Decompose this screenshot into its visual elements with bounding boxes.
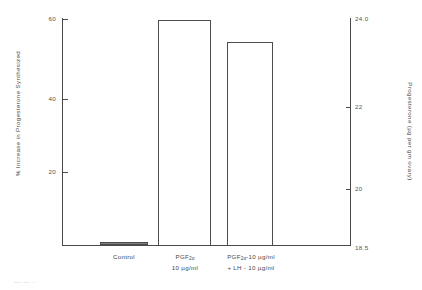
y-axis-left-ticklabel-20: 20 [16, 169, 56, 175]
bar-pgf2a [158, 20, 211, 245]
y-axis-left-tick-20 [63, 172, 68, 173]
x-axis-label-pgf2a-line2: 10 µg/ml [152, 263, 218, 273]
y-axis-left-title: % Increase in Progesterone Synthesized [14, 19, 21, 209]
y-axis-left-ticklabel-60: 60 [16, 16, 56, 22]
x-axis-label-control-text: Control [113, 253, 135, 260]
caption-remnant: —·— ·· [14, 279, 37, 285]
x-axis-label-pgf2a-plus-lh-line2: + LH - 10 µg/ml [212, 263, 290, 273]
y-axis-right-ticklabel-18-5: 18.5 [355, 245, 368, 251]
x-axis-label-pgf2a-plus-lh-prefix: PGF [227, 253, 241, 260]
x-axis-label-pgf2a: PGF2α 10 µg/ml [152, 252, 218, 273]
y-axis-left-tick-40 [63, 99, 68, 100]
y-axis-left-ticklabel-40: 40 [16, 96, 56, 102]
x-axis-label-pgf2a-prefix: PGF [175, 253, 189, 260]
y-axis-right-ticklabel-24: 24.0 [355, 16, 368, 22]
y-axis-right-title: Progesterone (µg per gm ovary) [407, 37, 414, 227]
bar-pgf2a-plus-lh [227, 42, 273, 245]
x-axis-label-pgf2a-line1: PGF2α [152, 252, 218, 263]
y-axis-left-line [62, 18, 63, 246]
x-axis-label-pgf2a-plus-lh-line1: PGF2α-10 µg/ml [212, 252, 290, 263]
y-axis-right-tick-22 [346, 107, 351, 108]
y-axis-right-line [350, 18, 351, 246]
y-axis-right-tick-20 [346, 189, 351, 190]
y-axis-left-tick-60 [63, 19, 68, 20]
bar-control [100, 242, 148, 245]
chart-page: 60 40 20 24.0 22 20 18.5 Control PGF2α 1… [0, 0, 422, 290]
x-axis-label-pgf2a-plus-lh-suffix: -10 µg/ml [246, 253, 275, 260]
x-axis-label-control: Control [94, 252, 154, 262]
x-axis-label-pgf2a-subscript: 2α [189, 256, 194, 261]
y-axis-right-ticklabel-22: 22 [355, 104, 363, 110]
x-axis-label-pgf2a-plus-lh: PGF2α-10 µg/ml + LH - 10 µg/ml [212, 252, 290, 273]
x-axis-line [62, 245, 351, 246]
y-axis-right-ticklabel-20: 20 [355, 186, 363, 192]
